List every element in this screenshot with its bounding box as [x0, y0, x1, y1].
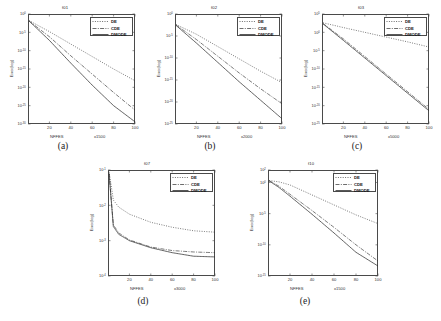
legend-entry-dmode: DMODE — [172, 188, 210, 195]
y-axis-label-f10: Error(log) — [249, 208, 254, 238]
panel-f02: f02 2040608010010010-510-1010-1510-2010-… — [147, 4, 293, 156]
legend-label: DE — [191, 175, 197, 180]
legend-line-sample-dashdot — [92, 26, 109, 31]
legend-line-sample-solid — [92, 32, 109, 37]
legend-line-sample-dashdot — [239, 26, 256, 31]
y-tick-label: 10-20 — [165, 99, 174, 105]
y-tick-label: 100 — [260, 179, 266, 185]
y-axis-label-f01: Error(log) — [9, 54, 14, 84]
legend-label: CDE — [405, 26, 414, 31]
y-tick-label: 10-1 — [99, 167, 106, 173]
x-tick-label: 40 — [149, 277, 154, 282]
legend-f01: DECDEDMODE — [90, 17, 133, 36]
x-tick-label: 20 — [341, 125, 346, 130]
y-axis-label-f07: Error(log) — [89, 208, 94, 238]
caption-b: (b) — [190, 141, 230, 151]
legend-label: DE — [354, 175, 360, 180]
legend-line-sample-solid — [172, 188, 189, 193]
caption-e: (e) — [285, 296, 325, 306]
legend-line-sample-solid — [335, 188, 352, 193]
x-tick-label: 100 — [132, 125, 140, 130]
x-tick-label: 40 — [363, 125, 368, 130]
x-axis-multiplier-f02: x2000 — [241, 134, 252, 139]
x-axis-multiplier-f03: x5000 — [388, 134, 399, 139]
y-tick-label: 10-4 — [99, 273, 106, 279]
y-tick-label: 10-15 — [312, 84, 321, 90]
y-tick-label: 10-25 — [165, 121, 174, 127]
legend-entry-dmode: DMODE — [335, 188, 373, 195]
x-tick-label: 60 — [384, 125, 389, 130]
legend-label: DMODE — [258, 32, 274, 37]
panel-f01: f01 2040608010010010-510-1010-1510-2010-… — [0, 4, 146, 156]
x-tick-label: 60 — [170, 277, 175, 282]
x-axis-label-f03: NFFES — [344, 134, 357, 139]
x-axis-multiplier-f10: x1500 — [334, 286, 345, 291]
legend-line-sample-solid — [239, 32, 256, 37]
caption-d: (d) — [123, 296, 163, 306]
x-tick-label: 80 — [258, 125, 263, 130]
legend-entry-dmode: DMODE — [239, 32, 277, 39]
x-tick-label: 20 — [47, 125, 52, 130]
y-tick-label: 10-25 — [18, 103, 27, 109]
x-tick-label: 60 — [237, 125, 242, 130]
legend-label: CDE — [258, 26, 267, 31]
x-tick-label: 80 — [405, 125, 410, 130]
y-tick-label: 10-10 — [165, 55, 174, 61]
legend-f10: DECDEDMODE — [333, 173, 376, 192]
legend-label: DE — [258, 19, 264, 24]
legend-label: CDE — [111, 26, 120, 31]
legend-label: DE — [405, 19, 411, 24]
legend-f03: DECDEDMODE — [384, 17, 427, 36]
legend-line-sample-dotted — [386, 19, 403, 24]
panel-f03: f03 2040608010010510010-510-1010-1510-20… — [294, 4, 440, 156]
y-tick-label: 10-10 — [312, 66, 321, 72]
y-tick-label: 10-10 — [18, 48, 27, 54]
y-tick-label: 10-15 — [258, 273, 267, 279]
y-tick-label: 102 — [260, 167, 266, 173]
y-tick-label: 10-10 — [258, 242, 267, 248]
legend-label: DMODE — [191, 188, 207, 193]
x-axis-label-f10: NFFES — [290, 286, 303, 291]
x-tick-label: 40 — [69, 125, 74, 130]
y-tick-label: 10-5 — [259, 211, 266, 217]
y-tick-label: 10-15 — [18, 66, 27, 72]
legend-line-sample-dotted — [172, 175, 189, 180]
legend-label: DMODE — [354, 188, 370, 193]
legend-label: CDE — [354, 182, 363, 187]
legend-line-sample-dashdot — [172, 182, 189, 187]
x-axis-label-f02: NFFES — [197, 134, 210, 139]
legend-f02: DECDEDMODE — [237, 17, 280, 36]
x-tick-label: 20 — [288, 277, 293, 282]
x-axis-label-f01: NFFES — [50, 134, 63, 139]
legend-line-sample-dashdot — [335, 182, 352, 187]
legend-line-sample-solid — [386, 32, 403, 37]
x-tick-label: 20 — [127, 277, 132, 282]
legend-entry-dmode: DMODE — [386, 32, 424, 39]
legend-line-sample-dashdot — [386, 26, 403, 31]
y-axis-label-f03: Error(log) — [303, 54, 308, 84]
x-tick-label: 100 — [375, 277, 383, 282]
y-axis-label-f02: Error(log) — [156, 54, 161, 84]
y-tick-label: 100 — [314, 29, 320, 35]
x-tick-label: 80 — [111, 125, 116, 130]
legend-label: DE — [111, 19, 117, 24]
legend-label: DMODE — [111, 32, 127, 37]
x-tick-label: 40 — [310, 277, 315, 282]
y-tick-label: 10-5 — [313, 48, 320, 54]
legend-label: DMODE — [405, 32, 421, 37]
x-axis-multiplier-f01: x1500 — [94, 134, 105, 139]
caption-a: (a) — [43, 141, 83, 151]
panel-f07: f07 2040608010010-110-210-310-4 Error(lo… — [80, 160, 226, 318]
legend-line-sample-dotted — [335, 175, 352, 180]
y-tick-label: 100 — [167, 11, 173, 17]
x-tick-label: 100 — [426, 125, 434, 130]
legend-line-sample-dotted — [92, 19, 109, 24]
y-tick-label: 10-20 — [312, 103, 321, 109]
panel-f10: f10 2040608010010210010-510-1010-15 Erro… — [240, 160, 390, 318]
x-axis-multiplier-f07: x3000 — [174, 286, 185, 291]
y-tick-label: 10-5 — [166, 33, 173, 39]
y-tick-label: 10-3 — [99, 238, 106, 244]
legend-line-sample-dotted — [239, 19, 256, 24]
x-axis-label-f07: NFFES — [130, 286, 143, 291]
legend-f07: DECDEDMODE — [170, 173, 213, 192]
